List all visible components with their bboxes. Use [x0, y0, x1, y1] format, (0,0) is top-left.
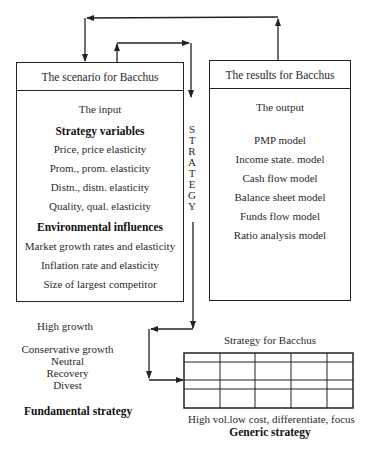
strategy-letter: Y: [186, 201, 198, 212]
generic-strategy-caption: High vol.low cost, differentiate, focus: [188, 413, 352, 425]
fundamental-option-recovery: Recovery: [15, 367, 120, 379]
generic-strategy-title: Strategy for Bacchus: [220, 334, 320, 346]
strategy-variable-item: Price, price elasticity: [17, 143, 183, 155]
output-label: The output: [210, 101, 350, 113]
results-title-text: The results for Bacchus: [226, 69, 335, 81]
environmental-item: Inflation rate and elasticity: [17, 259, 183, 271]
strategy-variables-heading: Strategy variables: [17, 125, 183, 137]
model-item: Balance sheet model: [210, 191, 350, 203]
model-item: Funds flow model: [210, 210, 350, 222]
fundamental-option-divest: Divest: [15, 379, 120, 391]
fundamental-option-high-growth: High growth: [30, 320, 100, 332]
fundamental-strategy-label: Fundamental strategy: [24, 405, 132, 417]
model-item: Cash flow model: [210, 172, 350, 184]
results-box: The results for Bacchus The output PMP m…: [209, 60, 351, 301]
results-box-title: The results for Bacchus: [210, 61, 350, 89]
fundamental-option-conservative-growth: Conservative growth: [15, 343, 120, 355]
model-item: Ratio analysis model: [210, 229, 350, 241]
scenario-title-text: The scenario for Bacchus: [41, 71, 158, 83]
environmental-item: Market growth rates and elasticity: [17, 240, 183, 252]
strategy-variable-item: Distn., distn. elasticity: [17, 181, 183, 193]
strategy-variable-item: Quality, qual. elasticity: [17, 200, 183, 212]
input-label: The input: [17, 103, 183, 115]
fundamental-option-neutral: Neutral: [15, 355, 120, 367]
model-item: PMP model: [210, 134, 350, 146]
scenario-box: The scenario for Bacchus The input Strat…: [16, 62, 184, 302]
model-item: Income state. model: [210, 153, 350, 165]
scenario-box-title: The scenario for Bacchus: [17, 63, 183, 91]
environmental-item: Size of largest competitor: [17, 278, 183, 290]
strategy-variable-item: Prom., prom. elasticity: [17, 162, 183, 174]
generic-strategy-grid: [184, 353, 353, 408]
generic-strategy-label: Generic strategy: [188, 426, 352, 438]
environmental-influences-heading: Environmental influences: [17, 221, 183, 233]
feedback-arrow: [85, 17, 278, 61]
strategy-vertical-label: S T R A T E G Y: [186, 124, 198, 212]
